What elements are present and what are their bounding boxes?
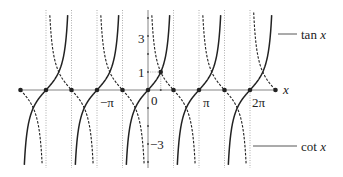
y-tick-mark bbox=[147, 35, 149, 37]
axis-intersection-point bbox=[120, 88, 125, 93]
axis-intersection-point bbox=[197, 88, 202, 93]
x-tick-label-zero: 0 bbox=[151, 94, 158, 107]
legend-tan-label: tan x bbox=[301, 28, 326, 41]
axis-intersection-point bbox=[171, 88, 176, 93]
axis-intersection-point bbox=[44, 88, 49, 93]
y-tick-mark bbox=[147, 107, 149, 109]
y-tick-mark bbox=[147, 17, 149, 19]
cot-curve bbox=[21, 90, 43, 165]
axis-intersection-point bbox=[248, 88, 253, 93]
axis-intersection-point bbox=[69, 88, 74, 93]
x-axis-label: x bbox=[283, 83, 289, 96]
axis-intersection-point bbox=[95, 88, 100, 93]
axis-intersection-point bbox=[146, 88, 151, 93]
axis-intersection-point bbox=[222, 88, 227, 93]
tan-cot-chart bbox=[0, 0, 343, 177]
y-tick-label-neg-3: −3 bbox=[150, 138, 164, 151]
x-tick-label-pi: π bbox=[203, 96, 210, 109]
y-tick-label-3: 3 bbox=[138, 32, 145, 45]
cot-curve bbox=[254, 12, 276, 90]
x-tick-label-two-pi: 2π bbox=[252, 96, 265, 109]
x-tick-label-neg-pi: −π bbox=[100, 96, 114, 109]
legend-cot-label: cot x bbox=[301, 140, 326, 153]
axis-intersection-point bbox=[273, 88, 278, 93]
y-tick-mark bbox=[147, 53, 149, 55]
y-tick-mark bbox=[147, 125, 149, 127]
y-tick-label-1: 1 bbox=[138, 66, 145, 79]
y-tick-mark bbox=[147, 161, 149, 163]
y-tick-mark bbox=[147, 143, 149, 145]
x-tick-mark bbox=[160, 89, 162, 91]
intersection-point bbox=[158, 70, 163, 75]
axis-intersection-point bbox=[18, 88, 23, 93]
